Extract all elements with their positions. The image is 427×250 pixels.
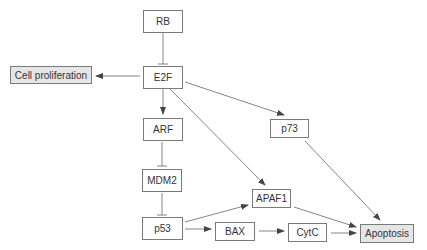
node-apoptosis: Apoptosis xyxy=(360,224,414,243)
node-p73: p73 xyxy=(270,119,309,138)
node-mdm2: MDM2 xyxy=(142,169,182,192)
edge-e2f-to-apaf1 xyxy=(170,89,265,185)
edge-p73-to-apoptosis xyxy=(305,141,380,220)
edges-layer xyxy=(0,0,427,250)
node-cell-proliferation: Cell proliferation xyxy=(10,66,92,84)
node-arf: ARF xyxy=(143,118,183,141)
node-bax: BAX xyxy=(215,222,255,241)
edge-e2f-to-p73 xyxy=(185,82,284,115)
node-apaf1: APAF1 xyxy=(252,189,291,208)
node-cytc: CytC xyxy=(288,223,327,242)
node-rb: RB xyxy=(143,10,183,33)
node-e2f: E2F xyxy=(143,66,183,89)
node-p53: p53 xyxy=(142,217,183,240)
edge-p53-to-apaf1 xyxy=(185,205,248,222)
